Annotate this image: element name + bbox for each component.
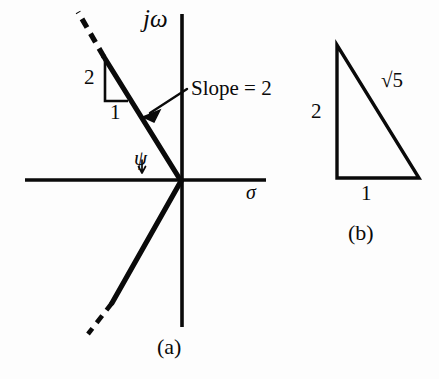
asymptote-angle-label: ψ [134,148,147,169]
upper-asymptote-dashed [78,12,104,57]
real-axis-label: σ [246,182,256,202]
lower-asymptote-dashed [88,303,112,334]
panel-b-group [337,45,419,178]
figure-drawing [0,0,439,379]
triangle-hypotenuse-label: √5 [381,70,403,91]
slope-annotation-label: Slope = 2 [191,78,272,99]
panel-a-caption: (a) [157,336,181,358]
panel-b-caption: (b) [348,222,374,244]
triangle-horizontal-side-label: 1 [361,183,372,204]
slope-triangle-run-label: 1 [110,102,121,123]
lower-asymptote-solid [112,181,181,303]
right-triangle-shape [337,45,419,178]
imaginary-axis-label: jω [143,6,168,31]
panel-a-group [25,12,266,334]
triangle-vertical-side-label: 2 [311,101,322,122]
slope-triangle-rise-label: 2 [84,67,95,88]
figure-container: jω σ ψ 2 1 Slope = 2 (a) 2 1 √5 (b) [0,0,439,379]
